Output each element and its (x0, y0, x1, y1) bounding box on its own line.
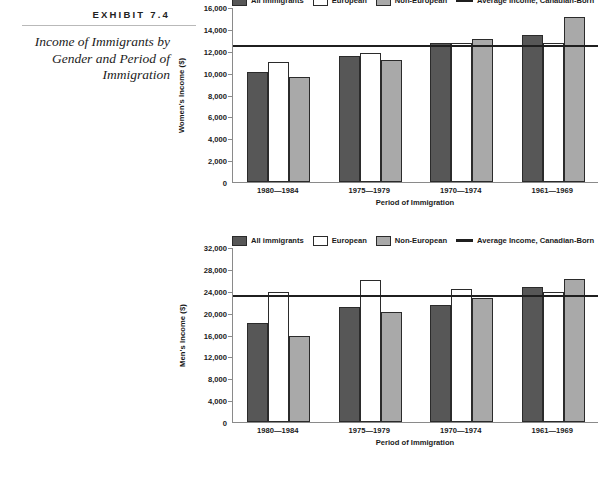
bar (360, 53, 381, 182)
y-tick-label: 0 (223, 179, 227, 188)
y-tick-mark (228, 117, 233, 118)
x-tick-label: 1961—1969 (532, 186, 573, 195)
black-line-swatch (456, 0, 473, 2)
y-axis-tick-labels-women: 02,0004,0006,0008,00010,00012,00014,0001… (190, 8, 227, 183)
legend-label: European (332, 236, 367, 245)
white-swatch (313, 0, 328, 6)
legend-item-0: All immigrants (232, 0, 304, 6)
bar (339, 56, 360, 182)
exhibit-label: EXHIBIT 7.4 (0, 0, 196, 25)
y-axis-title-label: Men's Income ($) (178, 304, 187, 367)
y-axis-title-men: Men's Income ($) (176, 248, 188, 423)
y-tick-mark (228, 52, 233, 53)
y-tick-label: 8,000 (208, 91, 227, 100)
light-gray-swatch (376, 236, 391, 246)
y-tick-label: 4,000 (208, 397, 227, 406)
y-tick-mark (228, 401, 233, 402)
x-tick-label: 1975—1979 (349, 426, 390, 435)
men-income-chart: All immigrantsEuropeanNon-EuropeanAverag… (182, 248, 600, 444)
bar (543, 292, 564, 422)
y-tick-label: 14,000 (204, 25, 227, 34)
y-tick-label: 0 (223, 419, 227, 428)
bar (360, 280, 381, 422)
bar-group (339, 248, 402, 422)
y-tick-mark (228, 270, 233, 271)
average-income-reference-line (233, 295, 598, 297)
y-tick-label: 16,000 (204, 4, 227, 13)
y-tick-label: 2,000 (208, 157, 227, 166)
bar (564, 279, 585, 422)
y-tick-label: 20,000 (204, 309, 227, 318)
dark-gray-swatch (232, 0, 247, 6)
y-tick-label: 12,000 (204, 353, 227, 362)
white-swatch (313, 236, 328, 246)
y-tick-label: 8,000 (208, 375, 227, 384)
light-gray-swatch (376, 0, 391, 6)
bar-series-men (233, 248, 598, 422)
plot-area-men (232, 248, 598, 423)
bar (472, 39, 493, 182)
bar-group (522, 248, 585, 422)
y-tick-mark (228, 139, 233, 140)
x-tick-label: 1961—1969 (532, 426, 573, 435)
legend-item-2: Non-European (376, 0, 447, 6)
y-tick-mark (228, 96, 233, 97)
chart-legend-men: All immigrantsEuropeanNon-EuropeanAverag… (232, 234, 594, 247)
y-tick-label: 10,000 (204, 69, 227, 78)
legend-label: Average Income, Canadian-Born (477, 0, 594, 5)
bar (289, 336, 310, 422)
bar (430, 305, 451, 422)
bar-series-women (233, 8, 598, 182)
bar (472, 298, 493, 422)
x-axis-title-women: Period of Immigration (232, 198, 598, 207)
legend-label: Non-European (395, 0, 447, 5)
legend-item-0: All immigrants (232, 236, 304, 246)
y-tick-mark (228, 30, 233, 31)
y-axis-tick-labels-men: 04,0008,00012,00016,00020,00024,00028,00… (190, 248, 227, 423)
bar (247, 323, 268, 422)
y-tick-mark (228, 292, 233, 293)
legend-item-2: Non-European (376, 236, 447, 246)
black-line-swatch (456, 239, 473, 242)
legend-item-1: European (313, 0, 367, 6)
y-tick-mark (228, 357, 233, 358)
bar (430, 43, 451, 182)
bar (543, 43, 564, 182)
legend-item-1: European (313, 236, 367, 246)
x-tick-label: 1975—1979 (349, 186, 390, 195)
legend-label: Non-European (395, 236, 447, 245)
x-tick-label: 1980—1984 (257, 186, 298, 195)
y-axis-title-label: Women's Income ($) (178, 58, 187, 133)
x-axis-title-men: Period of Immigration (232, 438, 598, 447)
bar (247, 72, 268, 182)
y-tick-mark (228, 161, 233, 162)
y-tick-label: 32,000 (204, 244, 227, 253)
legend-label: European (332, 0, 367, 5)
y-tick-mark (228, 74, 233, 75)
bar (522, 287, 543, 422)
bar (522, 35, 543, 182)
bar (268, 62, 289, 182)
x-tick-label: 1970—1974 (440, 186, 481, 195)
bar (451, 43, 472, 182)
bar (381, 60, 402, 183)
y-tick-label: 28,000 (204, 265, 227, 274)
bar (381, 312, 402, 422)
average-income-reference-line (233, 45, 598, 47)
women-income-chart: All immigrantsEuropeanNon-EuropeanAverag… (182, 8, 600, 204)
bar-group (430, 8, 493, 182)
bar (268, 292, 289, 422)
bar-group (430, 248, 493, 422)
x-tick-label: 1980—1984 (257, 426, 298, 435)
y-tick-label: 6,000 (208, 113, 227, 122)
y-tick-label: 24,000 (204, 287, 227, 296)
bar (289, 77, 310, 182)
bar (451, 289, 472, 422)
plot-area-women (232, 8, 598, 183)
y-tick-label: 12,000 (204, 47, 227, 56)
y-tick-mark (228, 8, 233, 9)
legend-label: All immigrants (251, 236, 304, 245)
y-axis-title-women: Women's Income ($) (176, 8, 188, 183)
bar (339, 307, 360, 422)
exhibit-caption: EXHIBIT 7.4 Income of Immigrants by Gend… (0, 0, 196, 84)
